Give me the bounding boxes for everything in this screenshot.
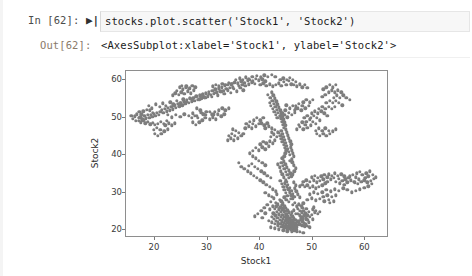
code-input-text[interactable]: stocks.plot.scatter('Stock1', 'Stock2') <box>105 15 355 27</box>
scatter-point <box>306 86 309 89</box>
scatter-point <box>367 185 370 188</box>
x-tick-mark <box>364 237 365 240</box>
scatter-point <box>309 124 312 127</box>
scatter-point <box>253 82 256 85</box>
scatter-point <box>183 92 186 95</box>
output-prompt-label: Out[62]: <box>40 39 110 51</box>
scatter-point <box>223 92 226 95</box>
scatter-point <box>308 180 311 183</box>
scatter-point <box>334 194 337 197</box>
scatter-point <box>264 212 267 215</box>
scatter-point <box>235 90 238 93</box>
scatter-point <box>328 201 331 204</box>
scatter-point <box>183 112 186 115</box>
scatter-point <box>273 139 276 142</box>
scatter-point <box>332 200 335 203</box>
scatter-point <box>256 212 259 215</box>
scatter-point <box>338 182 341 185</box>
scatter-point <box>367 175 370 178</box>
scatter-point <box>253 215 256 218</box>
scatter-point <box>275 135 278 138</box>
scatter-point <box>311 98 314 101</box>
x-tick-label: 60 <box>359 242 370 252</box>
x-axis-label: Stock1 <box>241 256 272 266</box>
scatter-point <box>308 226 311 229</box>
scatter-point <box>286 115 289 118</box>
scatter-point <box>257 148 260 151</box>
scatter-point <box>242 132 245 135</box>
scatter-point <box>320 191 323 194</box>
scatter-point <box>205 110 208 113</box>
scatter-point <box>291 172 294 175</box>
scatter-point <box>204 116 207 119</box>
scatter-point <box>348 98 351 101</box>
input-prompt-label: In [62]: <box>28 14 88 26</box>
scatter-point <box>299 109 302 112</box>
scatter-point <box>250 127 253 130</box>
scatter-point <box>302 202 305 205</box>
scatter-point <box>192 88 195 91</box>
scatter-point <box>216 94 219 97</box>
scatter-points-layer <box>126 71 387 236</box>
scatter-point <box>263 206 266 209</box>
scatter-point <box>318 118 321 121</box>
scatter-point <box>311 218 314 221</box>
scatter-point <box>334 127 337 130</box>
scatter-point <box>170 115 173 118</box>
scatter-figure: Stock2 Stock1 2030405060 2030405060 <box>96 60 406 272</box>
scatter-point <box>259 209 262 212</box>
scatter-point <box>178 115 181 118</box>
scatter-point <box>320 95 323 98</box>
x-tick-mark <box>312 237 313 240</box>
scatter-point <box>329 190 332 193</box>
scatter-point <box>227 106 230 109</box>
scatter-point <box>174 113 177 116</box>
scatter-point <box>310 197 313 200</box>
scatter-point <box>214 118 217 121</box>
scatter-point <box>363 186 366 189</box>
scatter-point <box>166 127 169 130</box>
scatter-point <box>266 203 269 206</box>
scatter-point <box>342 187 345 190</box>
output-repr-text: <AxesSubplot:xlabel='Stock1', ylabel='St… <box>101 39 396 51</box>
scatter-point <box>285 83 288 86</box>
scatter-point <box>334 180 337 183</box>
scatter-point <box>307 221 310 224</box>
scatter-point <box>264 148 267 151</box>
code-cell-input-row[interactable]: In [62]: ▶| stocks.plot.scatter('Stock1'… <box>0 10 472 32</box>
scatter-point <box>314 199 317 202</box>
scatter-point <box>286 230 289 233</box>
scatter-point <box>269 200 272 203</box>
scatter-point <box>333 188 336 191</box>
scatter-point <box>242 88 245 91</box>
scatter-point <box>251 149 254 152</box>
scatter-point <box>307 104 310 107</box>
scatter-point <box>271 142 274 145</box>
scatter-point <box>261 216 264 219</box>
notebook-cell-screenshot: In [62]: ▶| stocks.plot.scatter('Stock1'… <box>0 0 472 276</box>
scatter-point <box>314 122 317 125</box>
scatter-point <box>323 200 326 203</box>
y-axis-label: Stock2 <box>90 138 100 169</box>
scatter-point <box>269 176 272 179</box>
scatter-point <box>197 97 200 100</box>
scatter-point <box>294 166 297 169</box>
scatter-point <box>204 96 207 99</box>
scatter-point <box>354 189 357 192</box>
scatter-point <box>189 91 192 94</box>
scatter-point <box>273 227 276 230</box>
scatter-point <box>229 91 232 94</box>
scatter-point <box>340 103 343 106</box>
scatter-point <box>268 208 271 211</box>
x-tick-mark <box>207 237 208 240</box>
y-tick-label: 20 <box>100 224 122 234</box>
scatter-point <box>326 114 329 117</box>
scatter-point <box>157 113 160 116</box>
scatter-point <box>173 121 176 124</box>
scatter-point <box>232 139 235 142</box>
scatter-point <box>293 111 296 114</box>
scatter-point <box>324 93 327 96</box>
scatter-point <box>316 192 319 195</box>
run-cell-icon[interactable]: ▶| <box>86 13 98 28</box>
scatter-point <box>330 195 333 198</box>
